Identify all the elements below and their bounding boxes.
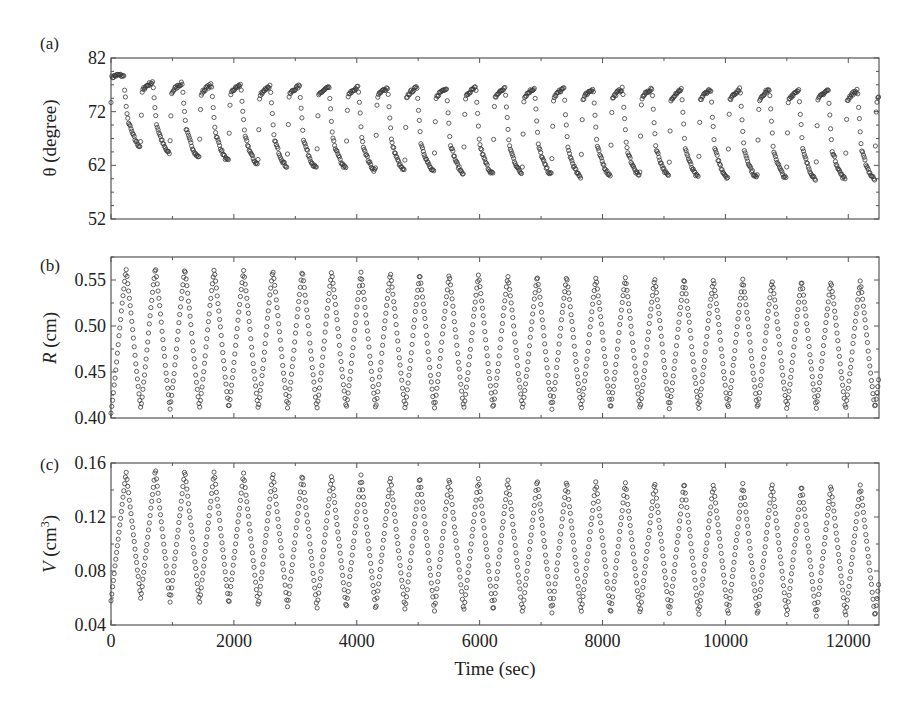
data-point (733, 349, 737, 353)
data-point (464, 385, 468, 389)
data-point (710, 100, 714, 104)
data-point (540, 523, 544, 527)
data-point (194, 380, 198, 384)
data-point (787, 389, 791, 393)
data-point (307, 534, 311, 538)
data-point (250, 551, 254, 555)
data-point (239, 88, 243, 92)
data-point (438, 558, 442, 562)
data-point (600, 330, 604, 334)
data-point (498, 548, 502, 552)
data-point (639, 134, 643, 138)
data-point (675, 335, 679, 339)
data-point (127, 491, 131, 495)
data-point (444, 301, 448, 305)
data-point (350, 353, 354, 357)
data-point (599, 322, 603, 326)
data-point (275, 510, 279, 514)
data-point (484, 548, 488, 552)
data-point (793, 330, 797, 334)
data-point (389, 279, 393, 283)
data-point (829, 127, 833, 131)
data-point (782, 591, 786, 595)
data-point (526, 561, 530, 565)
data-point (664, 583, 668, 587)
panel-label-b: (b) (40, 256, 60, 275)
data-point (539, 509, 543, 513)
data-point (214, 286, 218, 290)
data-point (704, 342, 708, 346)
data-point (173, 363, 177, 367)
data-point (857, 105, 861, 109)
data-point (627, 516, 631, 520)
data-point (234, 335, 238, 339)
data-point (689, 542, 693, 546)
data-point (590, 516, 594, 520)
data-point (663, 373, 667, 377)
data-point (781, 584, 785, 588)
data-point (135, 560, 139, 564)
data-point (802, 507, 806, 511)
data-point (377, 575, 381, 579)
data-point (234, 542, 238, 546)
data-point (355, 510, 359, 514)
data-point (612, 580, 616, 584)
data-point (546, 373, 550, 377)
data-point (791, 353, 795, 357)
data-point (770, 131, 774, 135)
data-point (633, 567, 637, 571)
data-point (325, 314, 329, 318)
data-point (821, 344, 825, 348)
data-point (298, 285, 302, 289)
data-point (247, 319, 251, 323)
data-point (297, 504, 301, 508)
data-point (223, 375, 227, 379)
data-point (353, 524, 357, 528)
data-point (416, 108, 420, 112)
data-point (221, 548, 225, 552)
data-point (268, 293, 272, 297)
data-point (245, 500, 249, 504)
data-point (191, 349, 195, 353)
data-point (707, 519, 711, 523)
data-point (850, 350, 854, 354)
data-point (238, 506, 242, 510)
data-point (252, 369, 256, 373)
data-point (166, 386, 170, 390)
data-point (213, 125, 217, 129)
data-point (555, 365, 559, 369)
data-point (563, 113, 567, 117)
data-point (657, 311, 661, 315)
data-point (359, 270, 363, 274)
data-point (440, 544, 444, 548)
data-point (736, 317, 740, 321)
data-point (592, 101, 596, 105)
data-point (508, 287, 512, 291)
data-point (786, 396, 790, 400)
data-point (626, 502, 630, 506)
data-point (526, 360, 530, 364)
data-point (404, 595, 408, 599)
data-point (508, 500, 512, 504)
data-point (374, 604, 378, 608)
data-point (800, 136, 804, 140)
data-point (267, 505, 271, 509)
data-point (744, 510, 748, 514)
data-point (212, 470, 216, 474)
data-point (336, 530, 340, 534)
data-point (183, 118, 187, 122)
data-point (561, 304, 565, 308)
data-point (823, 328, 827, 332)
data-point (366, 539, 370, 543)
data-point (616, 339, 620, 343)
data-point (762, 559, 766, 563)
data-point (866, 349, 870, 353)
data-point (574, 562, 578, 566)
data-point (260, 374, 264, 378)
data-point (338, 551, 342, 555)
data-point (862, 311, 866, 315)
data-point (826, 300, 830, 304)
data-point (682, 136, 686, 140)
data-point (487, 569, 491, 573)
data-point (359, 125, 363, 129)
